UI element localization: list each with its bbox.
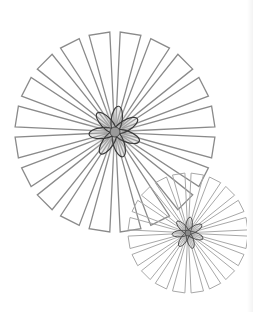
center-hub [185,230,191,236]
large-flower [15,32,215,232]
flower-illustration [0,0,253,312]
edge-strip [247,0,253,312]
center-hub [110,127,120,137]
